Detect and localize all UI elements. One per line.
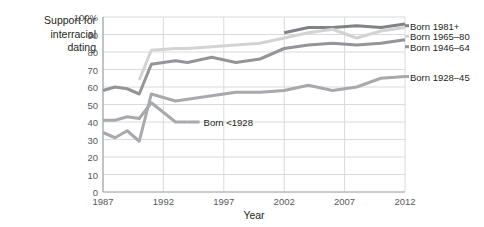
inline-legend-born-pre-1928: Born <1928 <box>204 117 253 128</box>
series-lines <box>103 24 405 141</box>
legend-item-0: Born 1981+ <box>410 20 459 31</box>
legend-item-3: Born 1928–45 <box>410 71 470 82</box>
legend-item-1: Born 1965–80 <box>410 31 470 42</box>
x-axis-title: Year <box>103 209 405 221</box>
legend-item-2: Born 1946–64 <box>410 41 470 52</box>
chart-container: Support for interracial dating 100%90807… <box>0 0 484 227</box>
legend-swatches <box>188 26 409 122</box>
